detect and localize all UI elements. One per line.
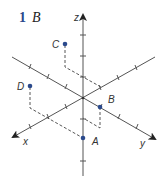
point-b: B [98,94,115,109]
exercise-answer-letter: B [32,10,41,25]
z-axis-label: z [73,12,79,23]
point-d: D [17,81,32,92]
projection-lines [30,45,101,138]
exercise-number: 1 [19,10,26,25]
point-c: C [52,39,67,50]
z-axis: z [73,12,86,176]
axes-svg: z x y [0,0,163,176]
x-axis-label: x [22,136,29,147]
point-a-label: A [91,136,99,147]
point-d-label: D [17,81,24,92]
point-b-label: B [108,94,115,105]
y-axis-label: y [139,138,146,149]
exercise-heading: 1B [19,10,41,26]
origin-dot [82,97,85,100]
point-c-label: C [52,39,60,50]
x-axis: x [13,57,155,147]
3d-coordinate-diagram: 1B z [0,0,163,176]
